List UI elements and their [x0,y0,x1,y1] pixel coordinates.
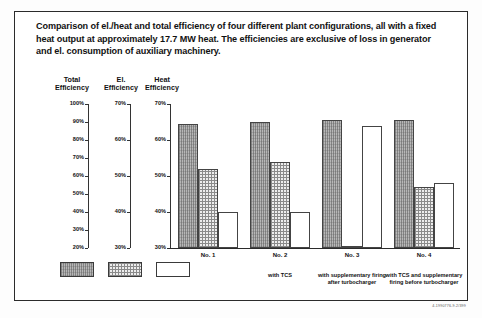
axis-heat-tick-label: 40% [140,209,166,215]
axis-total-tick-label: 70% [58,155,84,161]
axis-total-tick-mark [85,158,88,159]
axis-total-tick-mark [85,176,88,177]
axis-el-tick-label: 50% [100,173,126,179]
axis-total-tick-mark [85,212,88,213]
axis-total-tick-mark [85,230,88,231]
axis-total-tick-mark [85,194,88,195]
plot-baseline [168,248,460,249]
x-axis-group-caption: with supplementary firing after turbocha… [313,272,391,285]
axis-heat-tick-mark [167,140,170,141]
bar [178,124,198,248]
bar [218,212,238,248]
axis-heat-tick-label: 70% [140,101,166,107]
axis-total-tick-label: 50% [58,191,84,197]
x-axis-group-label: No. 4 [389,252,459,258]
axis-el-tick-label: 70% [100,101,126,107]
axis-heat-tick-mark [167,176,170,177]
axis-heat-tick-mark [167,212,170,213]
axis-el-tick-mark [127,212,130,213]
legend-swatch-heat-efficiency [156,262,190,277]
axis-total-tick-mark [85,104,88,105]
figure-code: 4-1990776-9.2/399 [432,304,466,308]
axis-total-line [88,104,89,248]
axis-total-tick-label: 80% [58,137,84,143]
axis-title-total-line2: Efficiency [46,84,98,92]
axis-heat-tick-label: 30% [140,245,166,251]
axis-el-tick-mark [127,104,130,105]
axis-el-tick-mark [127,248,130,249]
legend-swatch-el-efficiency [108,262,142,277]
bar [362,126,382,248]
x-axis-group-label: No. 1 [173,252,243,258]
axis-heat-tick-mark [167,104,170,105]
axis-el-tick-label: 60% [100,137,126,143]
axis-total-tick-label: 40% [58,209,84,215]
axis-el-tick-mark [127,176,130,177]
plot-area [172,86,458,248]
axis-total-tick-mark [85,248,88,249]
axis-total-tick-label: 20% [58,245,84,251]
bar [342,246,362,248]
axis-heat-line [170,104,171,248]
bar [270,162,290,248]
axis-heat-tick-label: 60% [140,137,166,143]
axis-el-tick-mark [127,140,130,141]
axis-el-line [130,104,131,248]
axis-total-tick-label: 100% [58,101,84,107]
figure-caption: Comparison of el./heat and total efficie… [36,20,440,58]
bar [434,183,454,248]
x-axis-group-caption: with TCS and supplementary firing before… [385,272,463,285]
x-axis-group-label: No. 2 [245,252,315,258]
legend-swatch-total-efficiency [60,262,94,277]
axis-el-tick-label: 40% [100,209,126,215]
axis-total-tick-mark [85,140,88,141]
axis-el-tick-label: 30% [100,245,126,251]
bar [414,187,434,248]
bar [394,120,414,248]
axis-total-tick-label: 60% [58,173,84,179]
bar [290,212,310,248]
axis-heat-tick-label: 50% [140,173,166,179]
axis-title-total: Total Efficiency [46,76,98,93]
bar [322,120,342,248]
bar [250,122,270,248]
axis-total-tick-mark [85,122,88,123]
x-axis-group-caption: with TCS [241,272,319,279]
figure-page: Comparison of el./heat and total efficie… [0,0,482,318]
bar [198,169,218,248]
axis-total-tick-label: 30% [58,227,84,233]
axis-total-tick-label: 90% [58,119,84,125]
x-axis-group-label: No. 3 [317,252,387,258]
